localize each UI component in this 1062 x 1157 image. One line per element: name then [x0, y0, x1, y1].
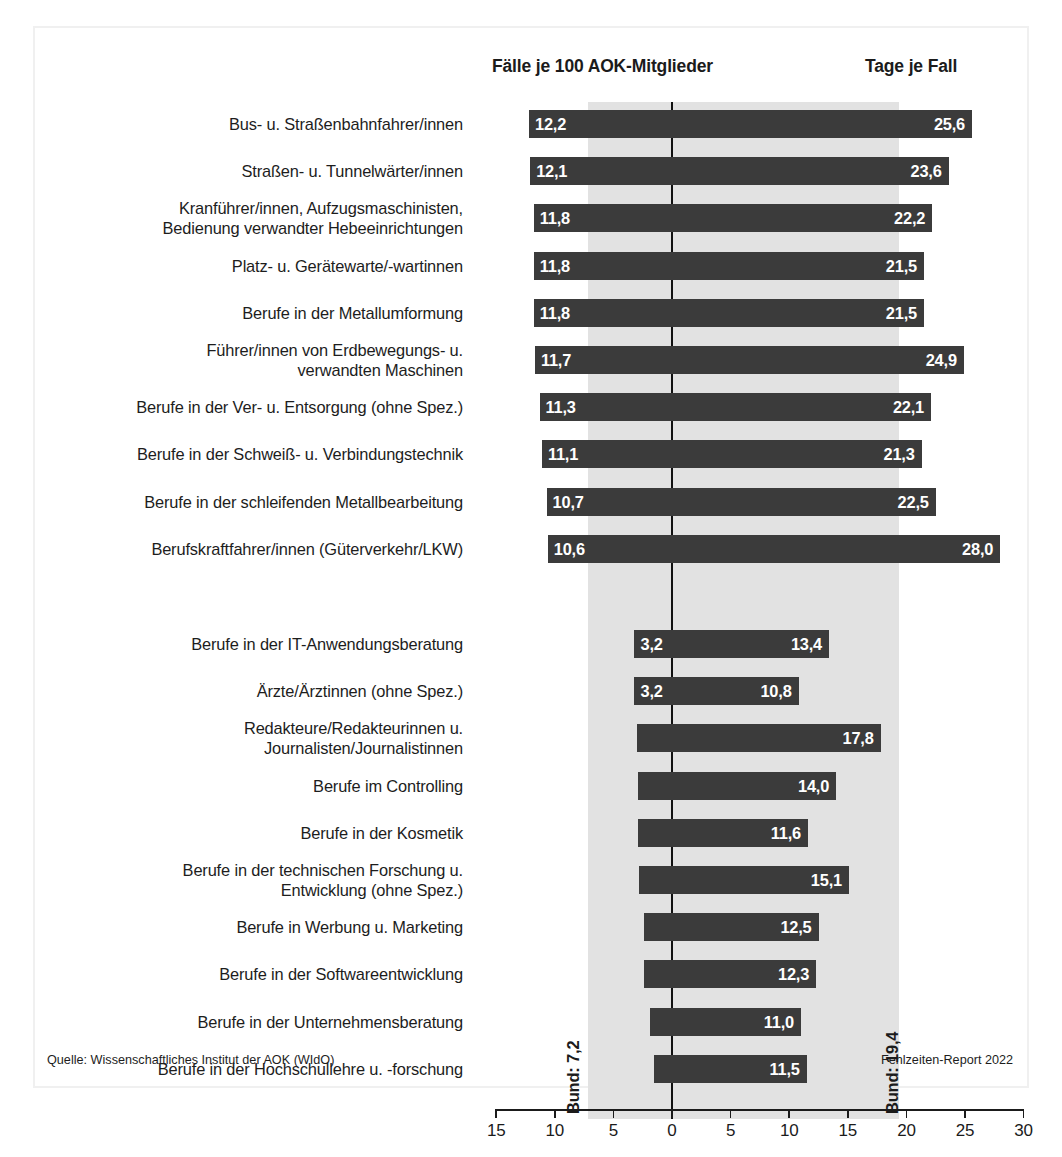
chart-row: Berufe in der Kosmetik2,911,6	[35, 819, 1031, 847]
bar-cases-value: 10,6	[554, 535, 585, 563]
bar-days-value: 22,2	[894, 204, 925, 232]
bar-days-value: 10,8	[760, 677, 791, 705]
bar-cases-value: 11,8	[540, 252, 570, 280]
bar-days-value: 23,6	[910, 157, 941, 185]
x-axis-tick-label: 5	[593, 1121, 633, 1141]
bar-cases-value: 11,8	[540, 299, 570, 327]
x-axis-line	[496, 1109, 1023, 1111]
chart-row: Redakteure/Redakteurinnen u. Journaliste…	[35, 724, 1031, 752]
row-category-label: Ärzte/Ärztinnen (ohne Spez.)	[257, 681, 463, 701]
chart-row: Straßen- u. Tunnelwärter/innen12,123,6	[35, 157, 1031, 185]
bar-cases-value: 10,7	[553, 488, 584, 516]
bar-days-value: 28,0	[962, 535, 993, 563]
bar-days: 23,6	[672, 157, 949, 185]
chart-row: Berufe in der IT-Anwendungsberatung3,213…	[35, 630, 1031, 658]
bar-days: 25,6	[672, 110, 972, 138]
bar-days-value: 21,5	[886, 299, 917, 327]
bar-cases: 11,1	[542, 440, 672, 468]
row-category-label: Redakteure/Redakteurinnen u. Journaliste…	[244, 718, 463, 758]
x-axis-tick-label: 30	[1004, 1121, 1044, 1141]
bar-cases	[638, 819, 672, 847]
row-category-label: Berufskraftfahrer/innen (Güterverkehr/LK…	[151, 539, 463, 559]
bar-cases-value: 3,2	[640, 677, 662, 705]
bar-cases: 11,3	[540, 393, 672, 421]
bar-days: 13,4	[672, 630, 829, 658]
bar-days: 11,6	[672, 819, 808, 847]
bar-cases-value: 3,2	[640, 630, 662, 658]
report-note: Fehlzeiten-Report 2022	[881, 1052, 1013, 1067]
bar-days: 12,5	[672, 913, 819, 941]
row-category-label: Berufe in der Softwareentwicklung	[219, 964, 463, 984]
row-category-label: Berufe in der Unternehmensberatung	[197, 1012, 463, 1032]
bar-cases	[639, 866, 672, 894]
x-axis: 15105051015202530	[35, 1109, 1031, 1155]
row-category-label: Führer/innen von Erdbewegungs- u. verwan…	[206, 340, 463, 380]
chart-row: Berufe in der Softwareentwicklung2,412,3	[35, 960, 1031, 988]
x-axis-tick-label: 20	[886, 1121, 926, 1141]
row-category-label: Berufe in der Ver- u. Entsorgung (ohne S…	[136, 397, 463, 417]
bar-days: 21,5	[672, 252, 924, 280]
plot-area: Bund: 7,2 Bund: 19,4 Bus- u. Straßenbahn…	[35, 88, 1031, 1038]
chart-row: Kranführer/innen, Aufzugsmaschinisten, B…	[35, 204, 1031, 232]
chart-row: Berufe in der Unternehmensberatung1,911,…	[35, 1008, 1031, 1036]
bar-days-value: 12,5	[780, 913, 811, 941]
bar-days-value: 22,5	[898, 488, 929, 516]
bar-cases-value: 12,2	[535, 110, 566, 138]
row-category-label: Berufe in der IT-Anwendungsberatung	[191, 634, 463, 654]
chart-row: Berufe in der Ver- u. Entsorgung (ohne S…	[35, 393, 1031, 421]
bar-days: 11,0	[672, 1008, 801, 1036]
left-axis-header: Fälle je 100 AOK-Mitglieder	[492, 56, 713, 77]
x-axis-tick	[906, 1109, 908, 1118]
x-axis-tick-label: 10	[769, 1121, 809, 1141]
x-axis-tick	[847, 1109, 849, 1118]
chart-row: Berufe im Controlling2,914,0	[35, 772, 1031, 800]
row-category-label: Berufe in Werbung u. Marketing	[236, 917, 463, 937]
x-axis-tick	[495, 1109, 497, 1118]
bar-cases: 3,2	[634, 677, 672, 705]
bar-days-value: 17,8	[843, 724, 874, 752]
bar-days: 21,3	[672, 440, 922, 468]
x-axis-tick	[554, 1109, 556, 1118]
bar-days-value: 22,1	[893, 393, 924, 421]
bar-cases	[644, 913, 672, 941]
bar-days-value: 21,3	[884, 440, 915, 468]
x-axis-tick-label: 15	[828, 1121, 868, 1141]
figure-footer: Quelle: Wissenschaftliches Institut der …	[35, 1052, 1027, 1076]
x-axis-tick	[730, 1109, 732, 1118]
x-axis-tick-label: 5	[711, 1121, 751, 1141]
row-category-label: Berufe in der schleifenden Metallbearbei…	[144, 492, 463, 512]
bar-days: 28,0	[672, 535, 1000, 563]
bar-cases: 12,1	[530, 157, 672, 185]
bar-cases	[650, 1008, 672, 1036]
row-category-label: Berufe in der Kosmetik	[300, 823, 463, 843]
row-category-label: Berufe in der Schweiß- u. Verbindungstec…	[137, 444, 463, 464]
row-category-label: Bus- u. Straßenbahnfahrer/innen	[229, 114, 463, 134]
bar-cases: 11,8	[534, 252, 672, 280]
bar-cases-value: 11,1	[548, 440, 578, 468]
chart-row: Berufskraftfahrer/innen (Güterverkehr/LK…	[35, 535, 1031, 563]
bar-days-value: 15,1	[811, 866, 842, 894]
bar-cases	[638, 772, 672, 800]
row-category-label: Straßen- u. Tunnelwärter/innen	[242, 161, 463, 181]
bar-days: 22,2	[672, 204, 932, 232]
x-axis-tick	[964, 1109, 966, 1118]
bar-cases: 12,2	[529, 110, 672, 138]
x-axis-tick	[671, 1109, 673, 1118]
right-axis-header: Tage je Fall	[865, 56, 957, 77]
chart-row: Berufe in der Metallumformung11,821,5	[35, 299, 1031, 327]
row-category-label: Berufe in der Metallumformung	[242, 303, 463, 323]
x-axis-tick-label: 0	[652, 1121, 692, 1141]
bar-cases-value: 12,1	[536, 157, 567, 185]
bar-days-value: 14,0	[798, 772, 829, 800]
chart-row: Berufe in der technischen Forschung u. E…	[35, 866, 1031, 894]
bar-days: 15,1	[672, 866, 849, 894]
chart-figure: Fälle je 100 AOK-Mitglieder Tage je Fall…	[33, 26, 1029, 1088]
bar-days: 12,3	[672, 960, 816, 988]
row-category-label: Platz- u. Gerätewarte/-wartinnen	[232, 256, 463, 276]
chart-row: Berufe in der schleifenden Metallbearbei…	[35, 488, 1031, 516]
chart-row: Ärzte/Ärztinnen (ohne Spez.)3,210,8	[35, 677, 1031, 705]
row-category-label: Berufe in der technischen Forschung u. E…	[183, 860, 463, 900]
bar-cases-value: 11,7	[541, 346, 571, 374]
chart-row: Führer/innen von Erdbewegungs- u. verwan…	[35, 346, 1031, 374]
bar-cases: 10,6	[548, 535, 672, 563]
